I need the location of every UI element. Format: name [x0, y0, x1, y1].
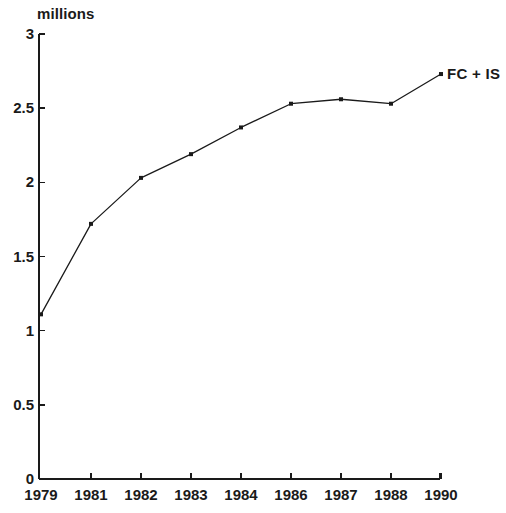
x-tick-label: 1988 [374, 486, 407, 503]
y-tick-label: 1 [26, 323, 34, 339]
series-label-fc-is: FC + IS [447, 65, 500, 82]
x-tick-label: 1979 [24, 486, 57, 503]
data-point-marker [289, 102, 293, 106]
y-tick-label: 0 [26, 471, 34, 487]
chart-series [39, 72, 443, 316]
data-point-marker [339, 97, 343, 101]
line-chart: millions 00.511.522.53 19791981198219831… [0, 0, 506, 513]
x-tick-label: 1987 [324, 486, 357, 503]
chart-plot-area [0, 0, 506, 513]
data-point-marker [89, 222, 93, 226]
x-tick-label: 1981 [74, 486, 107, 503]
y-tick-label: 2 [26, 174, 34, 190]
y-tick-label: 0.5 [13, 397, 34, 413]
data-point-marker [139, 176, 143, 180]
y-tick-label: 3 [26, 26, 34, 42]
data-point-marker [189, 152, 193, 156]
data-point-marker [239, 125, 243, 129]
x-tick-label: 1982 [124, 486, 157, 503]
y-tick-label: 1.5 [13, 249, 34, 265]
x-tick-label: 1986 [274, 486, 307, 503]
series-line [41, 74, 441, 314]
data-point-marker [439, 72, 443, 76]
x-tick-label: 1983 [174, 486, 207, 503]
data-point-marker [39, 312, 43, 316]
chart-axes [39, 34, 441, 479]
x-tick-label: 1984 [224, 486, 257, 503]
y-tick-label: 2.5 [13, 100, 34, 116]
data-point-marker [389, 102, 393, 106]
x-tick-label: 1990 [424, 486, 457, 503]
